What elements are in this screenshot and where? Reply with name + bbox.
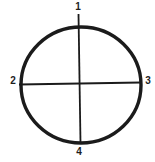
vertical-axis-line bbox=[79, 14, 81, 143]
marker-label-2: 2 bbox=[10, 76, 16, 86]
horizontal-axis-line bbox=[19, 83, 141, 85]
marker-label-1: 1 bbox=[75, 2, 81, 12]
diagram-canvas: 1 2 3 4 bbox=[0, 0, 155, 162]
marker-label-3: 3 bbox=[145, 76, 151, 86]
circle-crosshair-diagram bbox=[0, 0, 155, 162]
marker-label-4: 4 bbox=[76, 147, 82, 157]
